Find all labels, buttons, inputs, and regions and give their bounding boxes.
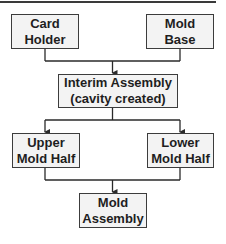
node-label: Interim Assembly — [64, 75, 172, 91]
node-label: Base — [164, 32, 195, 48]
merge-connector-top — [45, 48, 180, 73]
node-label: Mold Half — [151, 151, 210, 167]
node-mold-assembly: Mold Assembly — [79, 193, 147, 228]
node-label: Mold Half — [17, 151, 76, 167]
node-label: Mold — [82, 195, 143, 211]
node-label: Holder — [24, 32, 65, 48]
node-label: Assembly — [82, 211, 143, 227]
node-card-holder: Card Holder — [11, 14, 79, 49]
merge-connector-bottom — [45, 167, 180, 192]
node-label: Mold — [164, 16, 195, 32]
node-lower-mold-half: Lower Mold Half — [147, 133, 214, 168]
node-mold-base: Mold Base — [146, 14, 214, 49]
node-interim-assembly: Interim Assembly (cavity created) — [58, 74, 178, 108]
node-upper-mold-half: Upper Mold Half — [12, 133, 80, 168]
node-label: Upper — [17, 135, 76, 151]
split-connector-middle — [45, 107, 180, 132]
node-label: Card — [24, 16, 65, 32]
node-label: Lower — [151, 135, 210, 151]
node-label: (cavity created) — [64, 91, 172, 107]
